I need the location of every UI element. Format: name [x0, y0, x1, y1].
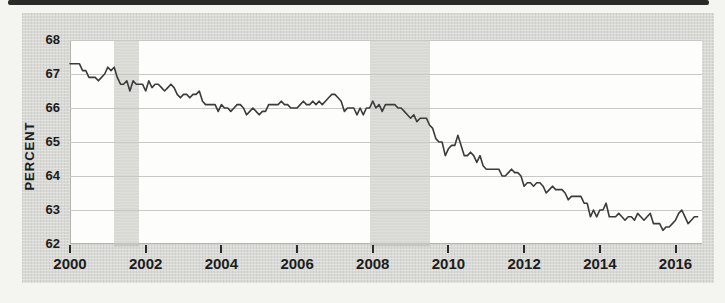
x-axis-tick-label: 2002 [116, 256, 176, 272]
top-rule [8, 0, 709, 5]
x-axis-tick-mark [69, 245, 71, 253]
x-axis-tick-mark [523, 245, 525, 253]
gridline [70, 142, 702, 143]
y-axis-tick-label: 62 [30, 237, 60, 251]
y-axis-tick-label: 66 [30, 101, 60, 115]
gridline [70, 40, 702, 41]
x-axis-tick-mark [372, 245, 374, 253]
y-axis-tick-label: 67 [30, 67, 60, 81]
gridline [70, 210, 702, 211]
x-axis-tick-mark [447, 245, 449, 253]
y-axis-tick-label: 65 [30, 135, 60, 149]
x-axis-tick-mark [296, 245, 298, 253]
gridline [70, 176, 702, 177]
x-axis-tick-mark [599, 245, 601, 253]
gridline [70, 108, 702, 109]
gridline [70, 74, 702, 75]
x-axis-tick-label: 2004 [191, 256, 251, 272]
y-axis-tick-label: 64 [30, 169, 60, 183]
x-axis-tick-mark [675, 245, 677, 253]
recession-band [114, 40, 139, 247]
x-axis-tick-label: 2012 [494, 256, 554, 272]
x-axis-tick-label: 2010 [418, 256, 478, 272]
x-axis-tick-mark [220, 245, 222, 253]
x-axis-tick-label: 2014 [570, 256, 630, 272]
recession-band [370, 40, 430, 247]
x-axis-tick-label: 2016 [646, 256, 706, 272]
x-axis-tick-mark [145, 245, 147, 253]
y-axis-tick-label: 63 [30, 203, 60, 217]
y-axis-tick-label: 68 [30, 33, 60, 47]
page-background: PERCENT 68676665646362200020022004200620… [0, 0, 725, 303]
x-axis-tick-label: 2006 [267, 256, 327, 272]
x-axis-tick-label: 2000 [40, 256, 100, 272]
x-axis-tick-label: 2008 [343, 256, 403, 272]
